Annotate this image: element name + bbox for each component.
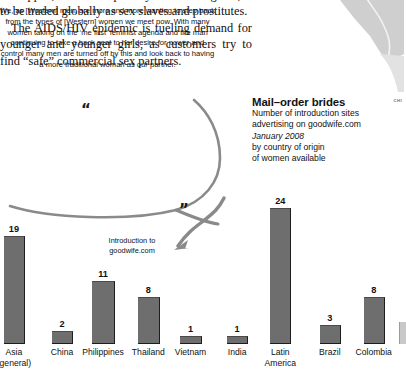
map-fragment — [284, 0, 404, 92]
bar-category-label: Philippines — [82, 347, 124, 358]
mail-order-brides-line-3: by country of origin — [252, 142, 402, 153]
bar-value-label: 8 — [364, 285, 384, 295]
bar-category-label: India — [228, 347, 247, 358]
bar-rect — [138, 297, 160, 344]
bar-category-label: Asia(general) — [0, 347, 31, 368]
map-shape-icon — [284, 0, 404, 92]
bar-category-label-line-1: China — [51, 347, 73, 358]
bar-category-label: China — [51, 347, 73, 358]
bar-group: 8Thailand — [138, 285, 159, 344]
clipped-first-line: kidnapped, often from poverty- stricken … — [0, 0, 252, 3]
mail-order-brides-line-1: Number of introduction sites — [252, 108, 402, 119]
bar-value-label: 1 — [227, 324, 247, 334]
bar-rect — [92, 281, 115, 344]
bar-group: 1India — [227, 324, 247, 344]
bar-rect — [227, 336, 248, 344]
bar-category-label: Colombia — [356, 347, 392, 358]
bar-category-label: Thailand — [132, 347, 165, 358]
bar-value-label: 3 — [320, 313, 340, 323]
clipped-edge-bar — [399, 322, 406, 344]
bar-category-label-line-1: India — [228, 347, 247, 358]
quote-text: We, as [Western] men, are more and more … — [0, 6, 215, 71]
clipped-first-line-text: kidnapped, often from poverty- stricken … — [0, 0, 241, 3]
bar-category-label-line-2: America — [265, 358, 297, 369]
bar-category-label: Vietnam — [175, 347, 206, 358]
bar-category-label-line-1: Thailand — [132, 347, 165, 358]
bar-category-label-line-1: Philippines — [82, 347, 124, 358]
bar-value-label: 19 — [4, 224, 24, 234]
bar-rect — [180, 336, 201, 344]
bar-category-label-line-1: Latin — [265, 347, 297, 358]
mail-order-brides-line-2: advertising on goodwife.com — [252, 119, 402, 130]
bar-value-label: 11 — [92, 269, 114, 279]
bar-rect — [4, 236, 25, 344]
mail-order-brides-title: Mail–order brides — [252, 96, 402, 108]
bar-value-label: 2 — [52, 319, 72, 329]
bar-value-label: 1 — [180, 324, 200, 334]
bar-rect — [52, 331, 73, 344]
bar-category-label-line-1: Colombia — [356, 347, 392, 358]
bar-group: 19Asia(general) — [4, 224, 24, 344]
bar-group: 24LatinAmerica — [270, 196, 290, 344]
bar-group: 3Brazil — [320, 313, 340, 344]
bar-group: 8Colombia — [364, 285, 384, 344]
bar-category-label-line-1: Brazil — [319, 347, 341, 358]
bar-rect — [320, 325, 341, 344]
bar-category-label: Brazil — [319, 347, 341, 358]
bar-chart: 19Asia(general)2China11Philippines8Thail… — [0, 200, 404, 385]
mail-order-brides-line-4: of women available — [252, 153, 402, 164]
bar-category-label-line-1: Vietnam — [175, 347, 206, 358]
bar-rect — [270, 208, 291, 344]
bar-category-label-line-2: (general) — [0, 358, 31, 369]
bar-group: 1Vietnam — [180, 324, 200, 344]
bar-value-label: 8 — [138, 285, 159, 295]
bar-group: 11Philippines — [92, 269, 114, 344]
bar-group: 2China — [52, 319, 72, 344]
mail-order-brides-block: Mail–order brides Number of introduction… — [252, 96, 402, 164]
bar-category-label: LatinAmerica — [265, 347, 297, 368]
bar-rect — [364, 297, 385, 344]
quote-open-icon: “ — [81, 103, 91, 118]
bar-category-label-line-1: Asia — [0, 347, 31, 358]
bar-value-label: 24 — [270, 196, 290, 206]
mail-order-brides-date: January 2008 — [252, 131, 402, 142]
